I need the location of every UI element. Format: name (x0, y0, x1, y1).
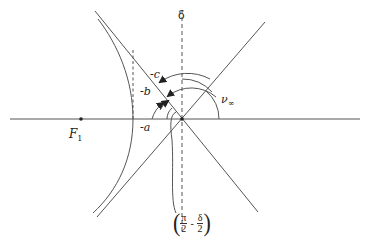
bracket-leader-line (171, 112, 176, 213)
neg-c-label: -c (150, 69, 160, 80)
delta-arc (182, 79, 212, 92)
hyperbola-branch (93, 19, 133, 213)
delta-numerator: δ (197, 213, 204, 224)
asymptote-1 (95, 11, 258, 212)
nu-symbol: ν (221, 93, 228, 106)
nu-subscript: ∞ (228, 99, 235, 108)
focus-point (79, 117, 83, 121)
hyperbola-diagram (0, 0, 370, 242)
neg-a-label: -a (140, 122, 150, 133)
half-angle-label: ( π 2 - δ 2 ) (173, 212, 211, 234)
close-paren: ) (203, 211, 210, 235)
small-vertex-arc (167, 108, 172, 119)
pi-over-2: π 2 (180, 213, 187, 234)
neg-a-arrow (152, 103, 163, 119)
neg-c-arrow (160, 73, 210, 82)
delta-denominator: 2 (198, 224, 203, 234)
focus-subscript: 1 (77, 134, 82, 143)
delta-label: δ (178, 10, 185, 21)
neg-b-label: -b (140, 86, 151, 97)
nu-inf-label: ν∞ (221, 94, 234, 108)
pi-denominator: 2 (181, 224, 186, 234)
focus-label: F1 (69, 128, 82, 143)
open-paren: ( (173, 211, 180, 235)
delta-over-2: δ 2 (197, 213, 204, 234)
center-point (180, 117, 184, 121)
pi-numerator: π (180, 213, 187, 224)
minus-sign: - (190, 218, 193, 229)
neg-a-arrow-2 (160, 101, 168, 110)
nu-inf-arc (206, 91, 219, 119)
